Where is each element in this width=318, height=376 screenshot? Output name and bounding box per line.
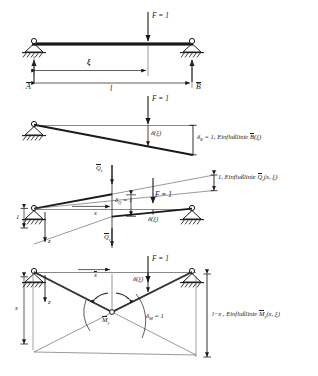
delta-xi-label-p4: δ(ξ) [133,276,143,283]
moment-My-label: My [102,317,109,326]
delta-Q-label: δQ = 1 [115,197,132,206]
panel3-group [21,165,218,248]
hinge-p4 [110,310,115,315]
dim-x-label-p3: x [94,210,97,217]
shear-label-top-p3: Qz [96,165,103,174]
delta-xi-label-p2: δ(ξ) [151,130,161,137]
support-left-p1 [22,38,46,57]
panel4-group [21,256,212,357]
support-right-p1 [180,38,204,57]
axis-z-label-p3: z [48,238,51,245]
panel2-group [22,96,197,155]
load-label-p2: F = 1 [152,95,169,102]
ext-a-p4 [34,272,196,355]
delta-xi-label-p3: δ(ξ) [148,216,158,223]
load-label-p1: F = 1 [152,12,169,19]
support-left-p2 [22,121,46,140]
angle-arc-right-p4 [136,294,146,338]
dim-one-label-p3: 1 [16,214,19,221]
ext-base-p4 [34,352,196,355]
delta-M-label: δM = 1 [146,313,164,322]
influence-line-B-caption: δB = 1, Einflußlinie B(ξ) [197,134,261,143]
reaction-B-label: B [196,83,201,91]
support-right-p4 [180,268,204,287]
support-left-p4 [22,268,46,287]
support-right-p3 [180,205,204,224]
panel1-group [22,12,204,88]
influence-line-figure: F = 1 A B ξ l F = 1 δ(ξ) δB = 1, Einfluß… [0,0,318,376]
moment-arc-right [116,293,129,299]
moment-arc-left [95,293,108,299]
ext-lower-p3 [34,217,112,244]
dim-xi-label: ξ [87,59,91,67]
displaced-beam-p2 [34,125,193,155]
axis-z-label-p4: z [48,299,51,306]
dim-l-label: l [110,85,112,93]
reaction-A-label: A [26,83,31,91]
beam-p1 [32,42,193,45]
load-label-p4: F = 1 [152,255,169,262]
influence-line-My-caption: l−x , Einflußlinie My(x, ξ) [212,311,280,320]
dim-x-label-p4: x [94,272,97,279]
influence-line-Qz-caption: 1, Einflußlinie Qz(x, ξ) [218,174,277,183]
load-label-p3: F = 1 [155,191,172,198]
dim-x-vert-label-p4: x [15,305,18,312]
shear-label-bottom-p3: Qz [104,234,111,243]
